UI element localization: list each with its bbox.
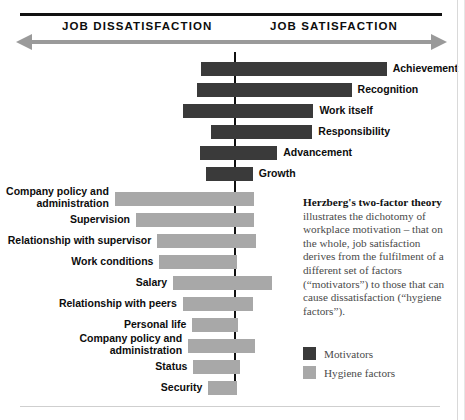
bar-recognition [197,83,352,97]
bar-achievement [201,62,387,76]
bar-advancement [200,146,278,160]
bar-supervision [136,213,254,227]
herzberg-two-factor-figure: JOB DISSATISFACTION JOB SATISFACTION Ach… [0,0,465,420]
bar-row: Achievement [0,60,465,81]
bar-label: Company policy andadministration [62,332,182,356]
axis-line [31,40,431,44]
axis-label-satisfaction: JOB SATISFACTION [270,20,398,32]
bar-personal-life [192,318,238,332]
legend-label-motivators: Motivators [324,348,373,360]
bar-company-policy-and-administration [115,192,254,206]
bar-row: Growth [0,165,465,186]
legend-swatch-hygiene [303,366,316,379]
description-lead: Herzberg's two-factor theory [303,196,442,208]
bar-label: Work conditions [71,254,153,269]
arrow-left-icon [16,34,32,50]
bar-label: Achievement [393,61,458,76]
description-body: illustrates the dichotomy of workplace m… [303,210,444,317]
bar-label: Security [161,380,202,395]
bar-label: Status [155,359,187,374]
bar-label: Supervision [70,212,130,227]
legend-item-motivators: Motivators [303,344,453,363]
bar-label: Company policy andadministration [0,185,109,209]
bar-relationship-with-subordinates [188,339,255,353]
bar-label: Recognition [358,82,419,97]
legend: Motivators Hygiene factors [303,344,453,382]
bar-label: Growth [259,166,296,181]
arrow-right-icon [431,34,447,50]
top-rule [20,13,442,16]
bar-label: Personal life [124,317,186,332]
bar-label: Advancement [283,145,352,160]
legend-swatch-motivators [303,347,316,360]
bar-work-conditions [159,255,237,269]
bar-label: Relationship with supervisor [8,233,152,248]
bar-work-itself [183,104,314,118]
bottom-rule [20,406,440,407]
bar-row: Security [0,379,465,400]
bar-row: Work itself [0,102,465,123]
bar-label: Work itself [319,103,372,118]
bar-label: Responsibility [318,124,390,139]
bar-growth [206,167,253,181]
satisfaction-axis: JOB DISSATISFACTION JOB SATISFACTION [0,24,465,54]
bar-status [193,360,240,374]
bar-label: Relationship with peers [59,296,177,311]
bar-row: Advancement [0,144,465,165]
description-text: Herzberg's two-factor theory illustrates… [303,196,445,318]
bar-responsibility [211,125,312,139]
bar-relationship-with-supervisor [157,234,256,248]
bar-label: Salary [136,275,168,290]
legend-item-hygiene: Hygiene factors [303,363,453,382]
bar-row: Responsibility [0,123,465,144]
bar-security [208,381,237,395]
bar-relationship-with-peers [183,297,253,311]
legend-label-hygiene: Hygiene factors [324,367,395,379]
bar-row: Recognition [0,81,465,102]
bar-salary [173,276,272,290]
frame-border-right [457,0,458,420]
axis-label-dissatisfaction: JOB DISSATISFACTION [62,20,212,32]
